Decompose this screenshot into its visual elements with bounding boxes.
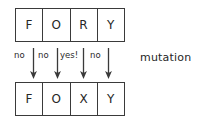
bottom-sequence-cell: F — [16, 83, 43, 115]
down-arrow-icon — [104, 48, 113, 80]
mutation-diagram: F O R Y no no yes! no — [0, 0, 204, 118]
bottom-sequence-row: F O X Y — [15, 82, 125, 116]
top-sequence-cell: Y — [98, 9, 124, 41]
top-sequence-cell: O — [43, 9, 70, 41]
transition-label: yes! — [60, 51, 78, 60]
mutation-caption: mutation — [140, 52, 191, 63]
down-arrow-icon — [29, 48, 38, 80]
transition-label: no — [38, 51, 49, 60]
transition-label: no — [90, 51, 101, 60]
transition-label: no — [14, 51, 25, 60]
bottom-sequence-cell: Y — [98, 83, 124, 115]
top-sequence-row: F O R Y — [15, 8, 125, 42]
bottom-sequence-cell: O — [43, 83, 70, 115]
bottom-sequence-cell: X — [71, 83, 98, 115]
top-sequence-cell: R — [71, 9, 98, 41]
top-sequence-cell: F — [16, 9, 43, 41]
down-arrow-icon — [79, 48, 88, 80]
